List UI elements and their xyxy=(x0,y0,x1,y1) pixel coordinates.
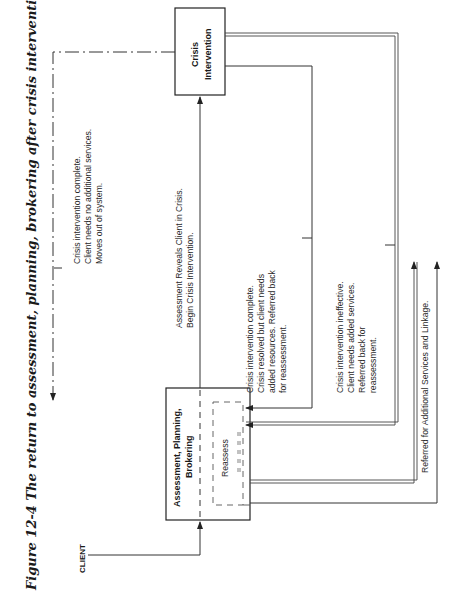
client-entry-line xyxy=(88,522,200,555)
ineffective-note-3: Referred back for xyxy=(357,326,367,393)
ineffective-note-1: Crisis intervention ineffective. xyxy=(335,281,345,393)
crisis-box-label-2: Intervention xyxy=(203,28,213,80)
reassess-label: Reassess xyxy=(220,439,230,477)
exit-note-1: Crisis intervention complete. xyxy=(72,156,82,264)
assessment-box-label-2: Brokering xyxy=(184,435,194,478)
referral-note: Referred for Additional Services and Lin… xyxy=(420,301,430,473)
ineffective-note-2: Client needs added services. xyxy=(346,283,356,393)
ineffective-note-4: reassessment. xyxy=(368,337,378,393)
client-label: CLIENT xyxy=(78,544,87,573)
figure-title: Figure 12-4 The return to assessment, pl… xyxy=(24,0,39,591)
resolved-note-4: for reassessment. xyxy=(278,325,288,393)
exit-note-2: Client needs no additional services. xyxy=(83,129,93,264)
exit-note-3: Moves out of system. xyxy=(94,183,104,264)
flow-diagram: Figure 12-4 The return to assessment, pl… xyxy=(0,0,462,598)
resolved-note-1: Crisis intervention complete. xyxy=(245,285,255,393)
resolved-note-2: Crisis resolved but client needs xyxy=(256,274,266,393)
to-crisis-note-1: Assessment Reveals Client in Crisis. xyxy=(174,188,184,328)
crisis-box-label-1: Crisis xyxy=(190,42,200,67)
resolved-note-3: added resources. Referred back xyxy=(267,270,277,393)
to-crisis-note-2: Begin Crisis Intervention. xyxy=(185,232,195,328)
assessment-box-label-1: Assessment, Planning, xyxy=(172,408,182,507)
crisis-box xyxy=(175,8,225,95)
